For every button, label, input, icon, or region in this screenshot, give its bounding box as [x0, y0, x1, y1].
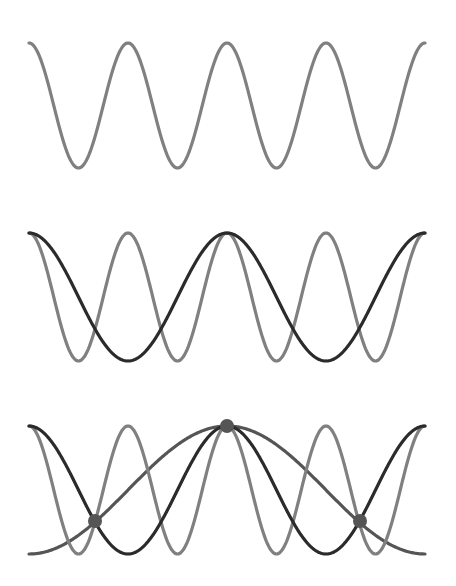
wave-long: [29, 426, 425, 554]
panel-2: [29, 233, 425, 361]
node-point: [353, 514, 367, 528]
panel-1: [29, 43, 425, 168]
wave-medium: [29, 426, 425, 554]
node-point: [88, 514, 102, 528]
panel-3: [29, 419, 425, 554]
wave-short: [29, 43, 425, 168]
harmonic-waves-diagram: [0, 0, 456, 586]
node-point: [220, 419, 234, 433]
wave-medium: [29, 233, 425, 361]
wave-short: [29, 233, 425, 361]
wave-short: [29, 426, 425, 554]
